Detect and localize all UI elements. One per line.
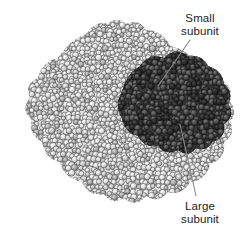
small-subunit-label: Small subunit xyxy=(168,12,232,37)
large-subunit-label-line1: Large xyxy=(168,200,232,213)
large-subunit-label-line2: subunit xyxy=(168,213,232,226)
small-subunit-label-line1: Small xyxy=(168,12,232,25)
small-subunit-label-line2: subunit xyxy=(168,25,232,38)
large-subunit-label: Large subunit xyxy=(168,200,232,225)
